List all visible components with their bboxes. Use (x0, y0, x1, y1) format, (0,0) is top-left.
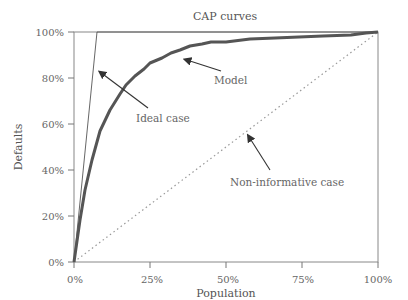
noninformative-label: Non-informative case (230, 176, 344, 188)
y-tick-100: 100% (35, 27, 64, 38)
model-arrow (190, 61, 221, 71)
y-axis (68, 32, 74, 262)
chart-title: CAP curves (193, 10, 257, 23)
noninformative-arrow (251, 140, 270, 170)
cap-chart: CAP curves 0% 20% 40% 60% 80% 100% 0% 25… (0, 0, 408, 300)
x-axis (74, 262, 378, 268)
y-tick-80: 80% (42, 73, 64, 84)
y-axis-label: Defaults (12, 123, 25, 170)
noninformative-line (74, 32, 378, 262)
y-tick-60: 60% (42, 119, 64, 130)
x-axis-label: Population (196, 287, 255, 300)
x-tick-100: 100% (364, 274, 393, 285)
y-tick-0: 0% (48, 257, 64, 268)
y-tick-20: 20% (42, 211, 64, 222)
x-tick-25: 25% (141, 274, 163, 285)
x-tick-75: 75% (292, 274, 314, 285)
ideal-arrow (104, 75, 148, 108)
x-tick-0: 0% (67, 274, 83, 285)
y-tick-40: 40% (42, 165, 64, 176)
model-label: Model (214, 74, 248, 86)
ideal-label: Ideal case (136, 112, 190, 124)
x-tick-50: 50% (217, 274, 239, 285)
